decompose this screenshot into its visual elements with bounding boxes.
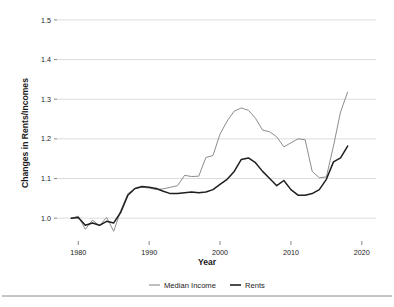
y-tick-label: 1.5 [41,16,51,25]
x-tick-label: 2020 [354,248,370,257]
y-tick-label: 1.1 [41,174,51,183]
chart-legend: Median IncomeRents [149,281,265,290]
x-tick-label: 2010 [283,248,299,257]
y-tick-label: 1.4 [41,55,51,64]
x-tick-label: 2000 [212,248,228,257]
y-tick-label: 1.3 [41,95,51,104]
x-tick-label: 1990 [141,248,157,257]
legend-label: Rents [245,281,265,290]
x-tick-label: 1980 [70,248,86,257]
y-tick-label: 1.0 [41,214,51,223]
y-axis-title: Changes in Rents/Incomes [20,78,30,188]
y-tick-label: 1.2 [41,134,51,143]
gridlines [57,20,376,218]
y-axis-ticks: 1.01.11.21.31.41.5 [41,16,57,223]
chart-canvas: 1.01.11.21.31.41.5 19801990200020102020 … [0,0,394,307]
series-line-median-income [71,92,347,231]
chart-figure: 1.01.11.21.31.41.5 19801990200020102020 … [0,0,394,307]
series-lines [71,92,347,231]
x-axis-title: Year [198,257,217,267]
series-line-rents [71,146,347,225]
legend-label: Median Income [164,281,216,290]
x-axis-ticks: 19801990200020102020 [70,241,370,257]
